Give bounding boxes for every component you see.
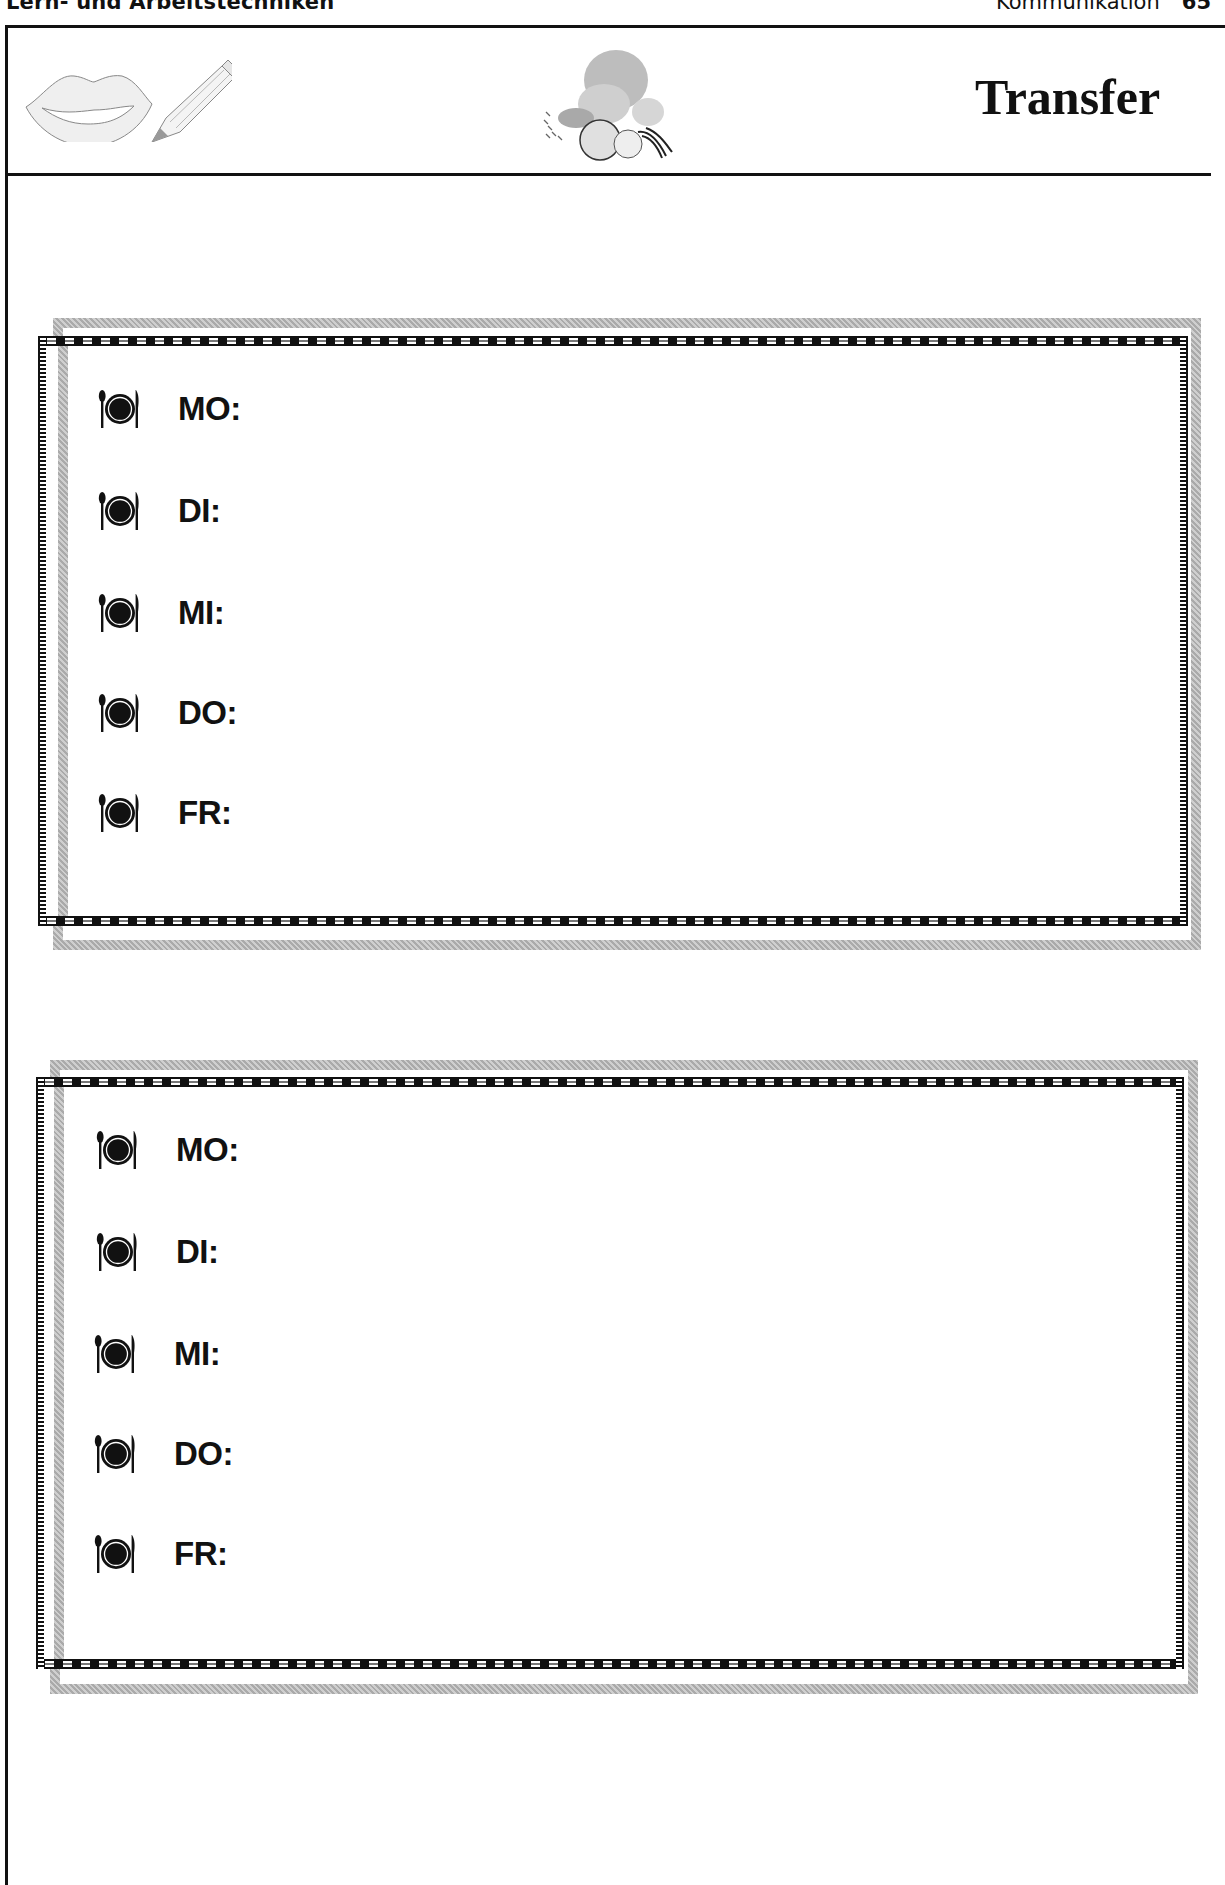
day-label: FR: [178,794,231,832]
header-divider [5,173,1211,176]
plate-cutlery-icon [98,592,142,634]
pencil-icon [152,60,232,142]
plate-cutlery-icon [94,1433,138,1475]
dotted-border-bottom [36,1659,1184,1669]
day-row-mo: MO: [96,1129,239,1171]
day-row-fr: FR: [94,1533,227,1575]
section-name: Kommunikation [996,0,1160,14]
day-row-do: DO: [94,1433,233,1475]
food-illustration [538,40,688,165]
day-label: DI: [178,492,221,530]
dotted-border-right [1176,1077,1184,1669]
gray-frame-left-overlap [54,1087,64,1659]
day-label: MI: [174,1335,220,1373]
worksheet-title: Transfer [975,68,1160,126]
dotted-border-right [1180,336,1188,926]
day-label: MO: [178,390,241,428]
day-row-do: DO: [98,692,237,734]
plate-cutlery-icon [98,388,142,430]
day-row-di: DI: [98,490,221,532]
plate-cutlery-icon [98,692,142,734]
gray-frame-left-overlap [58,346,68,916]
plate-cutlery-icon [96,1231,140,1273]
day-row-di: DI: [96,1231,219,1273]
plate-cutlery-icon [96,1129,140,1171]
day-row-fr: FR: [98,792,231,834]
section-title-right: Kommunikation65 [996,0,1211,14]
plate-cutlery-icon [94,1533,138,1575]
dotted-border-top [38,336,1188,346]
page-number: 65 [1182,0,1211,14]
dotted-border-top [36,1077,1184,1087]
lips-icon [26,76,152,142]
day-label: DI: [176,1233,219,1271]
lips-pencil-clipart [22,52,232,142]
meal-plan-box-2: MO: DI: MI: DO: FR: [36,1077,1184,1669]
day-label: MO: [176,1131,239,1169]
day-label: DO: [178,694,237,732]
plate-cutlery-icon [98,792,142,834]
day-row-mi: MI: [94,1333,220,1375]
section-title-left: Lern- und Arbeitstechniken [6,0,334,14]
day-label: MI: [178,594,224,632]
dotted-border-left [36,1077,44,1669]
dotted-border-bottom [38,916,1188,926]
day-label: DO: [174,1435,233,1473]
day-row-mi: MI: [98,592,224,634]
meal-plan-box-1: MO: DI: MI: DO: FR: [38,336,1188,926]
plate-cutlery-icon [98,490,142,532]
plate-cutlery-icon [94,1333,138,1375]
day-row-mo: MO: [98,388,241,430]
dotted-border-left [38,336,46,926]
day-label: FR: [174,1535,227,1573]
